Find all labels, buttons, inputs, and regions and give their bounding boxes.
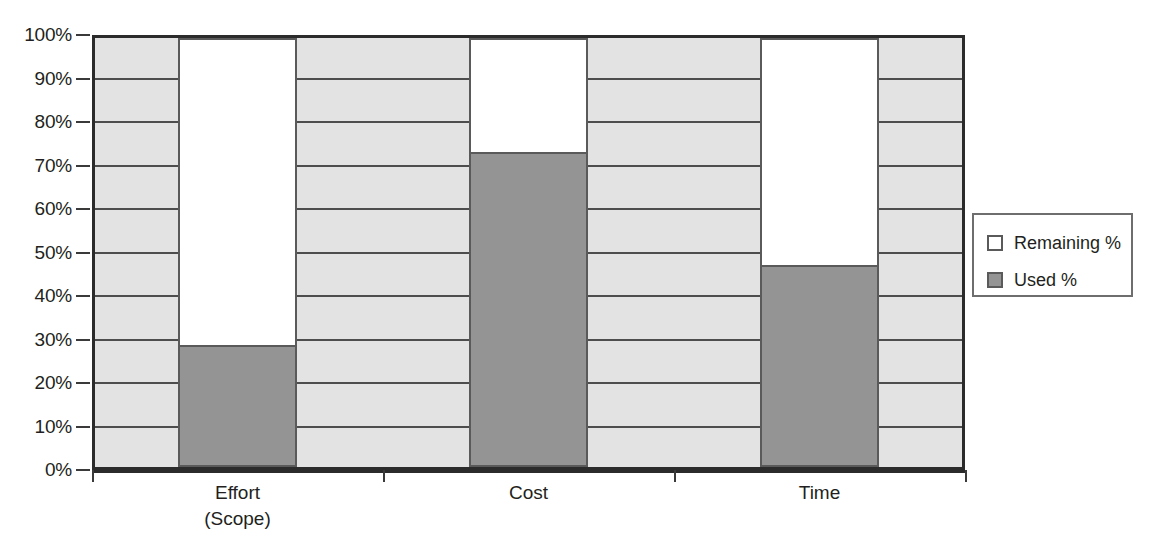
x-axis-category-label: Time [674,480,965,506]
bar-segment-remaining[interactable] [178,38,297,351]
x-axis-line [92,470,965,473]
y-axis-tick-mark [76,426,90,428]
y-axis-tick-mark [76,339,90,341]
x-axis-category-label-line1: Cost [383,480,674,506]
y-axis-tick-label: 10% [0,417,72,436]
plot-area [92,35,965,470]
y-axis-tick-mark [76,165,90,167]
y-axis-tick-mark [76,252,90,254]
y-axis-tick-label: 0% [0,460,72,479]
bar-segment-remaining[interactable] [469,38,588,158]
y-axis-tick-mark [76,34,90,36]
y-axis-tick-mark [76,295,90,297]
bar-group[interactable] [469,38,588,467]
y-axis-tick-label: 70% [0,156,72,175]
chart-page: 0%10%20%30%40%50%60%70%80%90%100% Remain… [0,0,1163,549]
y-axis-tick-mark [76,469,90,471]
y-axis-tick-label: 20% [0,373,72,392]
bar-segment-used[interactable] [760,265,879,467]
bar-segment-used[interactable] [469,152,588,467]
y-axis-tick-label: 40% [0,286,72,305]
gray-square-swatch [987,272,1003,288]
white-square-swatch [987,235,1003,251]
y-axis-tick-label: 30% [0,330,72,349]
bar-segment-used[interactable] [178,345,297,467]
x-axis-category-label-line1: Time [674,480,965,506]
legend-item-label: Used % [1014,271,1077,289]
y-axis-tick-mark [76,121,90,123]
plot-inner [95,38,962,467]
y-axis-tick-label: 50% [0,243,72,262]
bar-segment-remaining[interactable] [760,38,879,271]
y-axis-tick-mark [76,78,90,80]
legend-item[interactable]: Used % [987,271,1077,289]
y-axis: 0%10%20%30%40%50%60%70%80%90%100% [0,0,72,549]
x-axis-category-label: Effort(Scope) [92,480,383,532]
x-axis-category-label-line1: Effort [92,480,383,506]
y-axis-tick-mark [76,208,90,210]
y-axis-tick-label: 60% [0,199,72,218]
x-axis-tick-mark [965,470,967,482]
bar-group[interactable] [178,38,297,467]
y-axis-tick-label: 80% [0,112,72,131]
y-axis-tick-label: 90% [0,69,72,88]
legend-item-label: Remaining % [1014,234,1121,252]
y-axis-tick-mark [76,382,90,384]
chart-legend: Remaining %Used % [972,213,1133,297]
x-axis-category-label-line2: (Scope) [92,506,383,532]
x-axis-category-label: Cost [383,480,674,506]
legend-item[interactable]: Remaining % [987,234,1121,252]
bar-group[interactable] [760,38,879,467]
y-axis-tick-label: 100% [0,25,72,44]
